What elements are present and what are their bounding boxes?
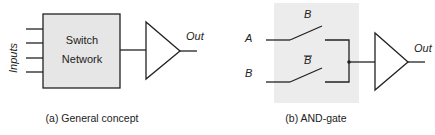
- panel-general-concept: Inputs Switch Network Out (a) General co…: [7, 14, 205, 124]
- input-a-label: A: [244, 32, 252, 44]
- output-label: Out: [414, 42, 433, 54]
- caption-b: (b) AND-gate: [285, 112, 346, 124]
- diagram-canvas: Inputs Switch Network Out (a) General co…: [0, 0, 435, 135]
- block-label-network: Network: [62, 53, 103, 65]
- buffer-triangle-icon: [375, 33, 408, 90]
- switch-network-shade: [274, 3, 359, 103]
- switch-network-block: [43, 14, 120, 88]
- caption-a: (a) General concept: [46, 112, 139, 124]
- inputs-label: Inputs: [7, 43, 19, 73]
- block-label-switch: Switch: [66, 34, 98, 46]
- output-label: Out: [186, 30, 205, 42]
- buffer-triangle-icon: [146, 22, 180, 79]
- panel-and-gate: A B B B Out (b) AND-gate: [244, 3, 433, 124]
- switch-top-label: B: [304, 8, 311, 20]
- input-b-label: B: [245, 67, 252, 79]
